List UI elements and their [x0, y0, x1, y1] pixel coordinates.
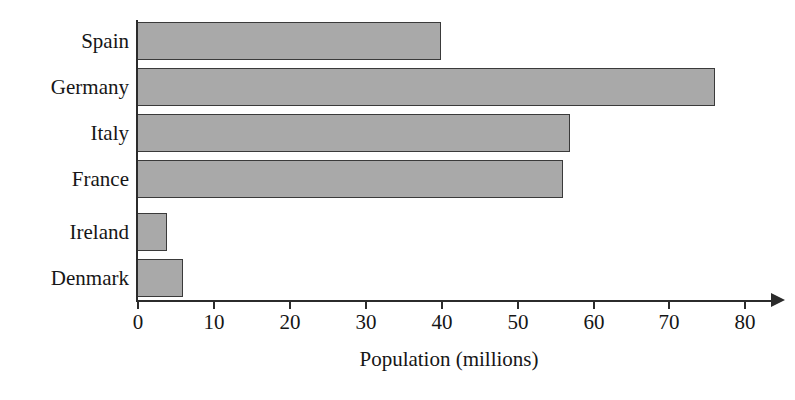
x-tick-label-60: 60 — [584, 312, 605, 333]
category-label-0: Spain — [0, 22, 137, 60]
x-tick-label-10: 10 — [204, 312, 225, 333]
category-label-4: Ireland — [0, 213, 137, 251]
x-tick-label-70: 70 — [659, 312, 680, 333]
category-label-text: Spain — [81, 31, 129, 52]
x-tick-80 — [744, 300, 746, 309]
x-axis-line — [137, 300, 777, 302]
x-tick-label-80: 80 — [735, 312, 756, 333]
category-label-text: Italy — [91, 123, 129, 144]
bar-denmark — [137, 259, 183, 297]
x-tick-label-50: 50 — [508, 312, 529, 333]
category-label-3: France — [0, 160, 137, 198]
category-label-text: Ireland — [70, 222, 129, 243]
x-tick-label-0: 0 — [133, 312, 144, 333]
category-label-5: Denmark — [0, 259, 137, 297]
bar-spain — [137, 22, 441, 60]
x-tick-60 — [593, 300, 595, 309]
bar-germany — [137, 68, 715, 106]
category-label-text: Denmark — [51, 268, 129, 289]
x-tick-30 — [365, 300, 367, 309]
x-tick-10 — [213, 300, 215, 309]
bar-france — [137, 160, 563, 198]
x-tick-40 — [441, 300, 443, 309]
x-tick-label-40: 40 — [432, 312, 453, 333]
y-axis-line — [136, 20, 138, 302]
category-label-text: Germany — [51, 77, 129, 98]
category-label-2: Italy — [0, 114, 137, 152]
bar-chart: Spain Germany Italy France Ireland Denma… — [0, 0, 795, 400]
x-tick-50 — [517, 300, 519, 309]
x-tick-label-30: 30 — [356, 312, 377, 333]
x-tick-0 — [137, 300, 139, 309]
x-tick-label-20: 20 — [280, 312, 301, 333]
bar-italy — [137, 114, 570, 152]
bar-ireland — [137, 213, 167, 251]
x-axis-title: Population (millions) — [137, 349, 761, 370]
x-tick-20 — [289, 300, 291, 309]
category-label-text: France — [72, 169, 129, 190]
category-label-1: Germany — [0, 68, 137, 106]
x-axis-arrow-icon — [771, 293, 785, 307]
x-tick-70 — [668, 300, 670, 309]
